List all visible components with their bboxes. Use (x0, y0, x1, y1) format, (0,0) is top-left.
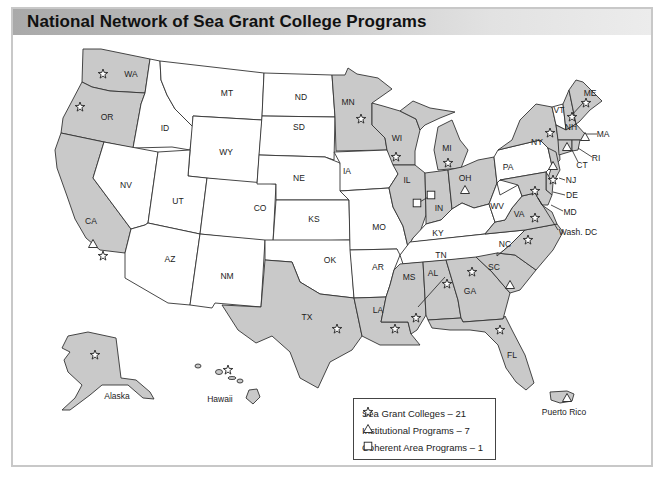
svg-text:AR: AR (372, 262, 384, 272)
svg-text:CO: CO (254, 203, 267, 213)
us-map: WA OR CA ID NV MT WY UT CO AZ NM ND SD N… (0, 0, 665, 479)
svg-text:MT: MT (221, 88, 233, 98)
svg-text:IL: IL (403, 175, 410, 185)
svg-text:IA: IA (343, 166, 351, 176)
legend-label: Institutional Programs – 7 (362, 425, 470, 436)
svg-text:RI: RI (592, 153, 601, 163)
svg-text:MD: MD (563, 207, 576, 217)
svg-text:LA: LA (373, 305, 384, 315)
svg-text:TN: TN (435, 250, 446, 260)
svg-text:Hawaii: Hawaii (207, 394, 233, 404)
svg-text:Alaska: Alaska (104, 391, 130, 401)
svg-text:VT: VT (554, 105, 565, 115)
svg-text:NC: NC (499, 239, 511, 249)
svg-text:CA: CA (85, 216, 97, 226)
svg-text:MS: MS (403, 272, 416, 282)
svg-text:KY: KY (432, 228, 444, 238)
svg-text:NE: NE (293, 173, 305, 183)
svg-text:FL: FL (507, 350, 517, 360)
star-icon (98, 251, 108, 260)
svg-text:GA: GA (464, 286, 477, 296)
state-az[interactable] (125, 223, 200, 305)
state-wa[interactable] (82, 49, 150, 93)
svg-text:NV: NV (120, 180, 132, 190)
svg-text:NH: NH (565, 122, 577, 132)
svg-text:WA: WA (124, 69, 138, 79)
legend: Sea Grant Colleges – 21 Institutional Pr… (353, 398, 496, 460)
svg-text:NM: NM (220, 271, 233, 281)
square-icon (427, 191, 435, 199)
state-fl[interactable] (428, 316, 534, 390)
svg-text:PA: PA (503, 162, 514, 172)
svg-text:TX: TX (302, 312, 313, 322)
svg-text:ND: ND (295, 92, 307, 102)
svg-text:SD: SD (293, 122, 305, 132)
legend-item-coherent-area-programs: Coherent Area Programs – 1 (362, 440, 483, 454)
legend-item-institutional-programs: Institutional Programs – 7 (362, 423, 470, 437)
svg-text:MI: MI (442, 143, 451, 153)
svg-text:VA: VA (514, 209, 525, 219)
svg-text:MA: MA (597, 129, 610, 139)
svg-text:OK: OK (324, 255, 337, 265)
svg-text:WI: WI (392, 133, 402, 143)
svg-text:MO: MO (372, 222, 386, 232)
svg-text:KS: KS (308, 214, 320, 224)
svg-text:OR: OR (101, 112, 114, 122)
square-icon (362, 440, 374, 452)
svg-text:ME: ME (584, 88, 597, 98)
legend-label: Coherent Area Programs – 1 (362, 442, 483, 453)
legend-label: Sea Grant Colleges – 21 (362, 408, 466, 419)
svg-text:ID: ID (161, 123, 170, 133)
svg-text:UT: UT (172, 196, 183, 206)
svg-text:AL: AL (428, 268, 439, 278)
star-icon (362, 406, 374, 418)
state-ri[interactable] (572, 140, 580, 151)
star-icon (223, 365, 233, 374)
svg-text:MN: MN (341, 97, 354, 107)
svg-text:Wash. DC: Wash. DC (559, 227, 597, 237)
square-icon (413, 199, 421, 207)
svg-text:NJ: NJ (566, 175, 576, 185)
triangle-icon (362, 423, 374, 435)
svg-text:DE: DE (566, 190, 578, 200)
svg-text:NY: NY (531, 137, 543, 147)
svg-text:AZ: AZ (165, 254, 176, 264)
legend-item-sea-grant-colleges: Sea Grant Colleges – 21 (362, 406, 466, 420)
svg-text:SC: SC (488, 262, 500, 272)
svg-text:OH: OH (459, 173, 472, 183)
svg-text:IN: IN (435, 203, 444, 213)
svg-text:WY: WY (219, 147, 233, 157)
svg-text:WV: WV (490, 201, 504, 211)
svg-text:Puerto Rico: Puerto Rico (542, 407, 587, 417)
